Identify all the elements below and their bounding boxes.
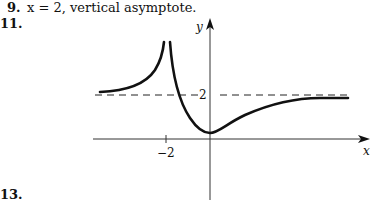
curve-left-branch bbox=[100, 42, 164, 92]
y-tick-label: 2 bbox=[199, 88, 207, 102]
x-tick-label: −2 bbox=[157, 146, 175, 160]
curve-right-branch bbox=[170, 42, 348, 133]
y-axis-label: y bbox=[195, 20, 203, 34]
graph: −2 2 y x bbox=[0, 0, 383, 204]
x-axis-label: x bbox=[363, 144, 370, 158]
